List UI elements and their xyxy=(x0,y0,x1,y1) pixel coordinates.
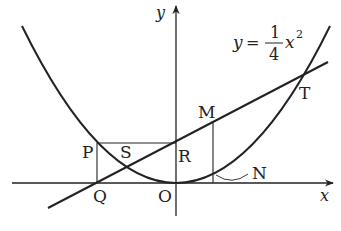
point-label-q: Q xyxy=(93,186,107,206)
point-label-r: R xyxy=(178,146,192,166)
point-label-n: N xyxy=(252,163,267,183)
equation-var: x xyxy=(285,32,295,52)
parabola-line-diagram: y x P S R Q O M N T y = 1 4 x 2 xyxy=(0,0,341,231)
point-label-p: P xyxy=(82,142,93,162)
n-pointer-arc xyxy=(216,174,248,180)
equation-numerator: 1 xyxy=(270,23,280,42)
equation-lhs: y xyxy=(232,32,243,52)
y-axis-label: y xyxy=(155,3,166,22)
equation-equals: = xyxy=(246,33,259,52)
equation-exponent: 2 xyxy=(296,28,303,41)
point-label-o: O xyxy=(158,186,172,206)
point-label-m: M xyxy=(198,102,215,122)
point-label-s: S xyxy=(120,142,132,162)
equation-denominator: 4 xyxy=(269,45,279,64)
point-label-t: T xyxy=(299,83,311,103)
equation-label: y = 1 4 x 2 xyxy=(232,23,303,64)
x-axis-label: x xyxy=(320,186,329,205)
